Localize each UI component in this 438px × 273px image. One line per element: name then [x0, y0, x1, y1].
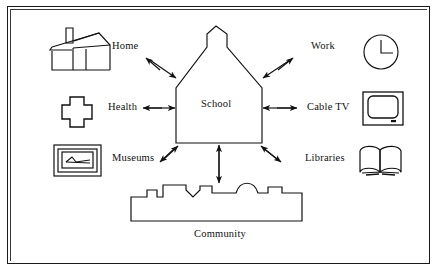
clock-icon [364, 35, 398, 69]
label-home: Home [112, 40, 138, 51]
label-community: Community [194, 228, 246, 239]
framed-picture-icon [54, 145, 101, 176]
medical-cross-icon [62, 97, 92, 127]
label-work: Work [311, 40, 335, 51]
arrow-home-school [146, 58, 176, 78]
label-health: Health [108, 101, 137, 112]
arrow-museums-school [160, 146, 178, 162]
label-museums: Museums [112, 152, 154, 163]
community-shape [131, 183, 302, 221]
label-school: School [201, 98, 231, 109]
arrow-libraries-school [261, 146, 281, 162]
diagram-canvas: Home Work Health Cable TV Museums Librar… [0, 0, 438, 273]
open-book-icon [360, 146, 401, 175]
school-shape [176, 26, 262, 143]
television-icon [363, 92, 403, 125]
label-libraries: Libraries [305, 152, 345, 163]
house-icon [50, 28, 110, 70]
label-cable-tv: Cable TV [307, 101, 350, 112]
arrow-work-school [263, 58, 293, 78]
